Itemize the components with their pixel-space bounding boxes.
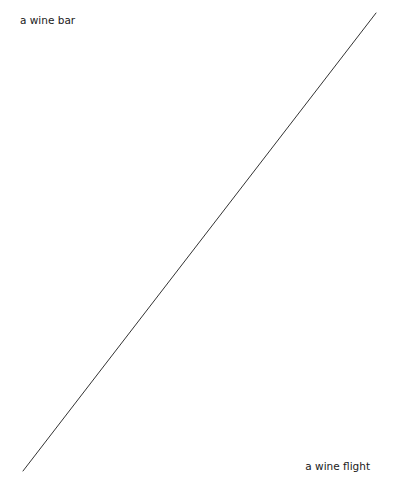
diagram-canvas: a wine bar a wine flight [0, 0, 395, 492]
end-label: a wine flight [305, 461, 370, 472]
start-label: a wine bar [20, 15, 75, 26]
diagonal-line [0, 0, 395, 492]
connector-line [23, 13, 376, 471]
